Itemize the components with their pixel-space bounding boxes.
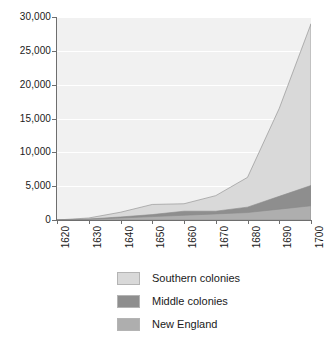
legend-swatch — [117, 295, 140, 308]
legend-item-label: Middle colonies — [152, 295, 228, 308]
x-axis-tick-label: 1660 — [188, 226, 198, 248]
y-axis-tick-label: 30,000 — [0, 12, 51, 22]
stacked-area-chart: 05,00010,00015,00020,00025,00030,000 162… — [0, 0, 327, 348]
area-series-southern-colonies — [57, 24, 311, 220]
y-axis-tick-label: 5,000 — [0, 181, 51, 191]
y-axis-tick-label: 25,000 — [0, 46, 51, 56]
area-series-group — [57, 17, 311, 220]
x-axis-tick-mark — [311, 220, 312, 224]
x-axis-tick-label: 1650 — [156, 226, 166, 248]
y-axis-tick-label: 10,000 — [0, 147, 51, 157]
x-axis-tick-mark — [152, 220, 153, 224]
y-axis-tick-mark — [52, 51, 56, 52]
x-axis-tick-label: 1700 — [315, 226, 325, 248]
x-axis-labels: 162016301640165016601670168016901700 — [0, 220, 327, 268]
x-axis-tick-mark — [279, 220, 280, 224]
legend-item[interactable]: Southern colonies — [117, 270, 317, 286]
x-axis-tick-label: 1680 — [252, 226, 262, 248]
legend-item[interactable]: New England — [117, 316, 317, 332]
x-axis-tick-label: 1640 — [125, 226, 135, 248]
x-axis-tick-mark — [184, 220, 185, 224]
x-axis-tick-label: 1630 — [93, 226, 103, 248]
y-axis-tick-mark — [52, 119, 56, 120]
y-axis-labels: 05,00010,00015,00020,00025,00030,000 — [0, 0, 51, 240]
x-axis-tick-mark — [57, 220, 58, 224]
y-axis-tick-mark — [52, 186, 56, 187]
chart-legend: Southern coloniesMiddle coloniesNew Engl… — [117, 270, 317, 339]
x-axis-tick-mark — [216, 220, 217, 224]
legend-item-label: New England — [152, 318, 217, 331]
x-axis-tick-label: 1670 — [220, 226, 230, 248]
y-axis-line — [56, 17, 57, 221]
y-axis-tick-mark — [52, 17, 56, 18]
x-axis-tick-mark — [121, 220, 122, 224]
plot-area — [57, 17, 311, 220]
x-axis-tick-label: 1620 — [61, 226, 71, 248]
legend-swatch — [117, 272, 140, 285]
x-axis-tick-mark — [89, 220, 90, 224]
y-axis-tick-label: 20,000 — [0, 80, 51, 90]
y-axis-tick-mark — [52, 152, 56, 153]
legend-swatch — [117, 318, 140, 331]
x-axis-tick-mark — [248, 220, 249, 224]
x-axis-tick-label: 1690 — [283, 226, 293, 248]
legend-item[interactable]: Middle colonies — [117, 293, 317, 309]
y-axis-tick-label: 15,000 — [0, 114, 51, 124]
legend-item-label: Southern colonies — [152, 272, 240, 285]
y-axis-tick-mark — [52, 85, 56, 86]
